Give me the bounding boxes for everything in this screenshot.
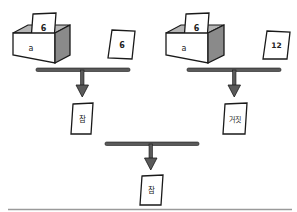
compare-card-value: 6 bbox=[119, 41, 125, 50]
arrow-down-icon bbox=[145, 158, 158, 170]
left-result-card: 참 bbox=[71, 103, 93, 134]
box-card-value: 6 bbox=[194, 24, 200, 33]
arrow-down-icon bbox=[76, 85, 89, 97]
result-value: 참 bbox=[79, 114, 86, 124]
left-variable-box: 6 a bbox=[13, 13, 70, 63]
box-front bbox=[166, 33, 208, 63]
box-label: a bbox=[182, 44, 187, 53]
right-comparison-bar bbox=[187, 68, 281, 97]
right-compare-card: 12 bbox=[263, 31, 290, 59]
result-value: 참 bbox=[148, 185, 155, 195]
final-combination-bar bbox=[105, 142, 199, 170]
compare-card-value: 12 bbox=[271, 41, 281, 50]
arrow-stem bbox=[81, 70, 85, 86]
result-value: 거짓 bbox=[229, 115, 241, 124]
box-label: a bbox=[29, 44, 34, 53]
left-compare-card: 6 bbox=[108, 30, 135, 59]
right-result-card: 거짓 bbox=[223, 103, 247, 134]
right-variable-box: 6 a bbox=[166, 13, 224, 63]
box-front bbox=[13, 33, 55, 63]
arrow-down-icon bbox=[228, 85, 241, 97]
arrow-stem bbox=[149, 144, 153, 159]
diagram-canvas: 6 a 6 참 6 a 12 bbox=[0, 0, 297, 212]
arrow-stem bbox=[233, 70, 237, 86]
left-comparison-bar bbox=[36, 68, 130, 97]
final-result-card: 참 bbox=[140, 175, 163, 205]
box-card-value: 6 bbox=[41, 24, 47, 33]
